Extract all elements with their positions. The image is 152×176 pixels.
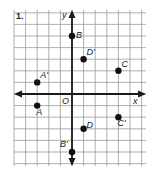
point-label: B (76, 31, 82, 40)
origin-label: O (62, 97, 69, 106)
x-axis-label: x (133, 97, 138, 106)
y-axis-arrow-up-icon (69, 10, 76, 18)
point-marker (69, 149, 75, 155)
point-label: B' (60, 140, 68, 149)
y-axis-arrow-down-icon (69, 158, 76, 166)
point-label: C' (117, 119, 125, 128)
point-marker (69, 33, 75, 39)
problem-number: 1. (16, 12, 24, 21)
point-label: A' (40, 71, 48, 80)
point-label: D (87, 121, 94, 130)
point-label: A (36, 108, 42, 117)
y-axis-label: y (62, 11, 67, 20)
point-label: D' (87, 48, 95, 57)
coordinate-plane-figure: 1. y x O BD'CA'ADC'B' (0, 0, 152, 176)
coordinate-grid (0, 0, 152, 176)
x-axis-arrow-left-icon (14, 91, 22, 98)
point-label: C (121, 60, 128, 69)
